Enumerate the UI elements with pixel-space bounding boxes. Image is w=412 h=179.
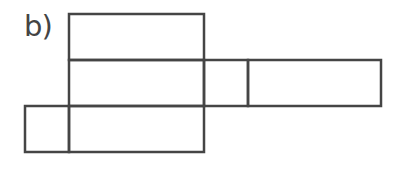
middle-small-square xyxy=(204,60,248,106)
middle-left-rectangle xyxy=(69,60,204,106)
net-diagram xyxy=(0,0,412,179)
bottom-rectangle xyxy=(69,106,204,152)
top-rectangle xyxy=(69,14,204,60)
bottom-small-square xyxy=(25,106,69,152)
middle-right-rectangle xyxy=(248,60,381,106)
